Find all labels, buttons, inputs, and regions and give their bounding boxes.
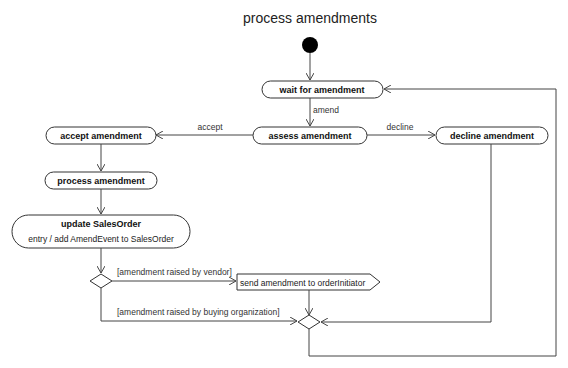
node-entry-action: entry / add AmendEvent to SalesOrder: [28, 234, 174, 244]
node-label: decline amendment: [450, 131, 534, 141]
edge-label-amend: amend: [313, 105, 339, 115]
node-label: send amendment to orderInitiator: [240, 278, 365, 288]
activity-diagram: process amendments wait for amendment am…: [0, 0, 568, 368]
initial-node: [302, 37, 318, 53]
node-update-salesorder: update SalesOrder entry / add AmendEvent…: [12, 215, 190, 248]
node-process-amendment: process amendment: [45, 172, 157, 189]
edge-label-accept: accept: [197, 122, 223, 132]
edge-label-vendor-guard: [amendment raised by vendor]: [117, 267, 232, 277]
node-accept-amendment: accept amendment: [46, 127, 156, 144]
edge-label-buying-guard: [amendment raised by buying organization…: [117, 307, 280, 317]
node-label: process amendment: [57, 176, 145, 186]
edge-decline-merge: [321, 144, 491, 322]
merge-node: [298, 315, 320, 329]
node-decline-amendment: decline amendment: [436, 127, 548, 144]
node-assess-amendment: assess amendment: [253, 127, 367, 144]
decision-node: [90, 274, 112, 288]
node-label: wait for amendment: [278, 85, 364, 95]
node-label: assess amendment: [268, 131, 351, 141]
node-wait-for-amendment: wait for amendment: [262, 81, 383, 98]
node-label: accept amendment: [60, 131, 142, 141]
diagram-title: process amendments: [243, 10, 377, 26]
edge-label-decline: decline: [387, 122, 414, 132]
node-label: update SalesOrder: [61, 219, 142, 229]
node-send-amendment: send amendment to orderInitiator: [237, 274, 380, 290]
